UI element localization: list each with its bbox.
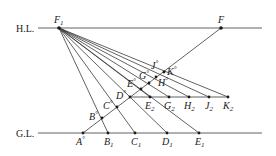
label-h2: H2 xyxy=(183,100,195,113)
label-e2: E2 xyxy=(144,100,155,113)
point-g xyxy=(148,82,151,85)
point-h xyxy=(155,76,158,79)
label-f1: F1 xyxy=(53,14,64,27)
label-f: F xyxy=(217,14,225,25)
label-horizon-line: H.L. xyxy=(16,23,34,34)
label-k2: K2 xyxy=(222,100,234,113)
point-b1 xyxy=(107,132,110,135)
point-d xyxy=(129,96,132,99)
label-j2: J2 xyxy=(205,100,213,113)
label-b1: B1 xyxy=(104,136,114,149)
ray-f1-h2 xyxy=(59,28,189,97)
point-c1 xyxy=(134,132,137,135)
point-g2 xyxy=(168,96,171,99)
label-c: C° xyxy=(103,99,113,111)
label-e1: E1 xyxy=(194,136,205,149)
point-k2 xyxy=(227,96,230,99)
label-c1: C1 xyxy=(131,136,141,149)
perspective-diagram: H.L. G.L. F1 F A° B1 C1 D1 E1 B° C° D° E… xyxy=(0,0,276,156)
ray-f1-d1 xyxy=(59,28,167,133)
ray-f1-j2 xyxy=(59,28,209,97)
line-a-to-f xyxy=(83,28,221,133)
point-b xyxy=(101,117,104,120)
label-b: B° xyxy=(89,110,98,122)
label-d1: D1 xyxy=(161,136,173,149)
point-c xyxy=(116,106,119,109)
label-e: E° xyxy=(126,77,136,89)
point-e xyxy=(140,88,143,91)
point-h2 xyxy=(188,96,191,99)
ray-f1-e2 xyxy=(59,28,150,97)
point-j2 xyxy=(208,96,211,99)
point-d1 xyxy=(166,132,169,135)
point-e2 xyxy=(149,96,152,99)
label-g: G° xyxy=(139,69,149,81)
point-f xyxy=(219,26,223,30)
label-ground-line: G.L. xyxy=(16,128,34,139)
label-a: A° xyxy=(75,135,85,147)
label-h: H° xyxy=(157,76,168,88)
point-k xyxy=(163,71,166,74)
label-d: D° xyxy=(115,89,126,101)
label-j: J° xyxy=(151,59,158,71)
point-a xyxy=(82,132,85,135)
point-e1 xyxy=(198,132,201,135)
